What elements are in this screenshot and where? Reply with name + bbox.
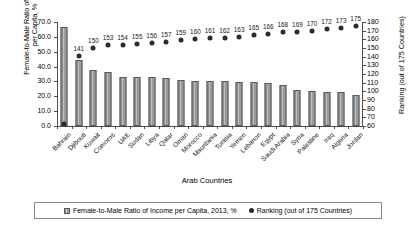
bar: [221, 81, 228, 126]
data-point: [135, 41, 140, 46]
y-axis-right-tick-label: 150: [367, 44, 393, 51]
bar: [148, 77, 155, 126]
x-axis-tick: [115, 126, 116, 129]
x-axis-tick: [319, 126, 320, 129]
x-axis-tick: [188, 126, 189, 129]
data-point: [251, 33, 256, 38]
y-axis-right-tick: [363, 31, 366, 32]
chart-figure: Female-to-Male Ratio of Income per Capit…: [0, 0, 414, 225]
data-point: [353, 24, 358, 29]
legend-item-dot: Ranking (out of 175 Countries): [249, 207, 352, 214]
y-axis-right-tick: [363, 91, 366, 92]
bar-slot: [261, 22, 276, 126]
data-point-label: 154: [117, 34, 128, 41]
bar: [308, 91, 315, 126]
bar: [192, 81, 199, 126]
data-point: [178, 38, 183, 43]
data-point-label: 141: [74, 45, 85, 52]
data-point-label: 156: [146, 32, 157, 39]
data-point: [280, 30, 285, 35]
y-axis-left-tick-label: 70.0: [19, 18, 51, 25]
bar: [250, 82, 257, 126]
bar: [206, 81, 213, 126]
bar: [104, 72, 111, 126]
y-axis-right-tick: [363, 65, 366, 66]
y-axis-left-tick-label: 0.0: [19, 122, 51, 129]
data-point: [237, 34, 242, 39]
y-axis-right-tick: [363, 100, 366, 101]
data-point-label: 170: [307, 20, 318, 27]
bar-slot: [319, 22, 334, 126]
bar-slot: [348, 22, 363, 126]
y-axis-right-title: Ranking (out of 175 Countries): [397, 5, 407, 125]
bar: [177, 80, 184, 126]
data-point-label: 155: [132, 33, 143, 40]
bar: [279, 85, 286, 126]
bar: [134, 77, 141, 126]
y-axis-right-tick-label: 130: [367, 61, 393, 68]
data-point: [76, 53, 81, 58]
x-axis-tick: [57, 126, 58, 129]
bar: [352, 95, 359, 126]
legend-bar-label: Female-to-Male Ratio of Income per Capit…: [73, 207, 237, 214]
legend-item-bar: Female-to-Male Ratio of Income per Capit…: [64, 207, 237, 214]
x-axis-tick: [130, 126, 131, 129]
legend-bar-swatch-icon: [64, 208, 70, 214]
y-axis-right-tick: [363, 57, 366, 58]
x-axis-tick: [101, 126, 102, 129]
x-axis-tick: [144, 126, 145, 129]
y-axis-left-tick-label: 50.0: [19, 48, 51, 55]
y-axis-right-tick: [363, 83, 366, 84]
y-axis-right-tick-label: 70: [367, 113, 393, 120]
x-axis-tick: [334, 126, 335, 129]
data-point-label: 165: [248, 24, 259, 31]
data-point-label: 173: [336, 17, 347, 24]
data-point: [120, 42, 125, 47]
y-axis-right-tick-label: 160: [367, 35, 393, 42]
bar: [90, 70, 97, 126]
y-axis-right-tick-label: 110: [367, 79, 393, 86]
y-axis-right-tick-label: 80: [367, 105, 393, 112]
bar-slot: [72, 22, 87, 126]
data-point-label: 169: [292, 21, 303, 28]
y-axis-right-tick-label: 140: [367, 53, 393, 60]
data-point: [266, 32, 271, 37]
bar: [61, 27, 68, 126]
bar: [338, 92, 345, 126]
data-point-label: 153: [103, 34, 114, 41]
bar-slot: [57, 22, 72, 126]
bar-slot: [334, 22, 349, 126]
data-point-label: 168: [278, 21, 289, 28]
data-point: [324, 26, 329, 31]
data-point-label: 161: [205, 27, 216, 34]
chart-legend: Female-to-Male Ratio of Income per Capit…: [34, 202, 382, 219]
bar: [163, 78, 170, 126]
data-point-label: 160: [190, 28, 201, 35]
data-point-label: 157: [161, 31, 172, 38]
x-axis-tick: [203, 126, 204, 129]
bar: [75, 60, 82, 126]
y-axis-right-tick-label: 90: [367, 96, 393, 103]
y-axis-right-tick-label: 120: [367, 70, 393, 77]
data-point: [164, 39, 169, 44]
bar-slot: [305, 22, 320, 126]
data-point-label: 163: [234, 26, 245, 33]
x-axis-tick: [261, 126, 262, 129]
x-axis-line: [57, 126, 363, 127]
x-axis-tick: [290, 126, 291, 129]
x-axis-tick: [276, 126, 277, 129]
y-axis-left-tick-label: 40.0: [19, 63, 51, 70]
data-point-label: 175: [350, 15, 361, 22]
data-point: [295, 29, 300, 34]
data-point: [310, 28, 315, 33]
bar: [236, 82, 243, 126]
data-point: [208, 36, 213, 41]
y-axis-left-tick-label: 10.0: [19, 107, 51, 114]
bar: [119, 77, 126, 126]
data-point: [106, 43, 111, 48]
data-point-label: 166: [263, 23, 274, 30]
x-axis-tick: [217, 126, 218, 129]
bar-slot: [246, 22, 261, 126]
x-axis-tick: [232, 126, 233, 129]
y-axis-right-tick: [363, 22, 366, 23]
